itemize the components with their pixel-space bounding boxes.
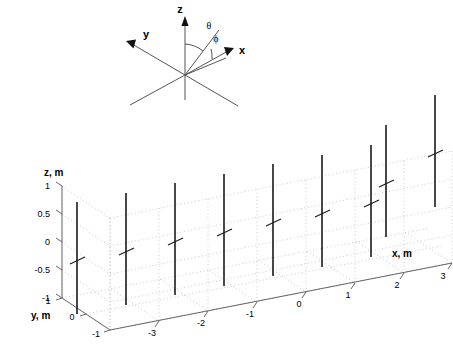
inset-z-label: z	[177, 3, 183, 15]
x-tick-label: 2	[394, 280, 399, 290]
x-tick-label: 3	[440, 271, 445, 281]
y-axis-title: y, m	[31, 310, 50, 321]
x-tick-label: 1	[345, 290, 350, 300]
y-tick-label: -1	[92, 329, 100, 339]
z-tick-label: 0.5	[37, 209, 50, 219]
z-tick-label: 0	[45, 237, 50, 247]
x-tick-label: -3	[148, 328, 156, 338]
z-tick-label: -0.5	[34, 265, 50, 275]
antenna-array-figure: z y x θ ϕ	[0, 0, 453, 360]
y-tick-label: 0	[69, 312, 74, 322]
y-tick-label: 1	[45, 296, 50, 306]
inset-theta-label: θ	[207, 20, 212, 31]
inset-phi-label: ϕ	[213, 33, 218, 44]
figure-canvas: z y x θ ϕ	[0, 0, 453, 360]
inset-y-label: y	[143, 28, 150, 40]
z-axis-title: z, m	[44, 167, 64, 178]
x-tick-label: -1	[246, 309, 254, 319]
inset-x-label: x	[239, 44, 246, 56]
x-tick-label: -2	[197, 318, 205, 328]
x-axis-title: x, m	[392, 248, 412, 259]
x-tick-label: 0	[296, 299, 301, 309]
z-tick-label: 1	[45, 181, 50, 191]
